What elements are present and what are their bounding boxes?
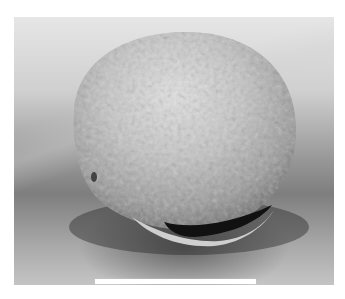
specimen-illustration — [14, 17, 334, 285]
surface-pit — [91, 172, 97, 182]
scale-bar — [95, 279, 256, 284]
micrograph — [14, 17, 334, 285]
